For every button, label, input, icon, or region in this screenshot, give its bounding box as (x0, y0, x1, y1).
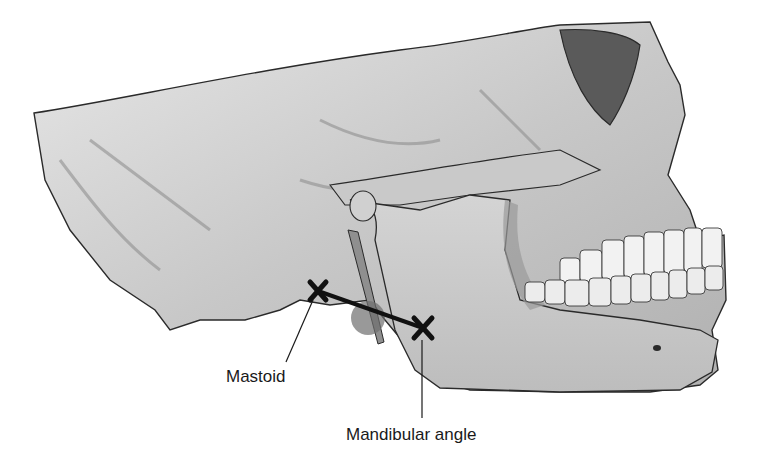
mandibular-angle-label: Mandibular angle (346, 425, 476, 445)
skull-diagram: Mastoid Mandibular angle (0, 0, 758, 476)
condyle (350, 191, 376, 221)
mastoid-leader-line (286, 300, 313, 362)
mastoid-label: Mastoid (226, 367, 286, 387)
skull-illustration (0, 0, 758, 476)
